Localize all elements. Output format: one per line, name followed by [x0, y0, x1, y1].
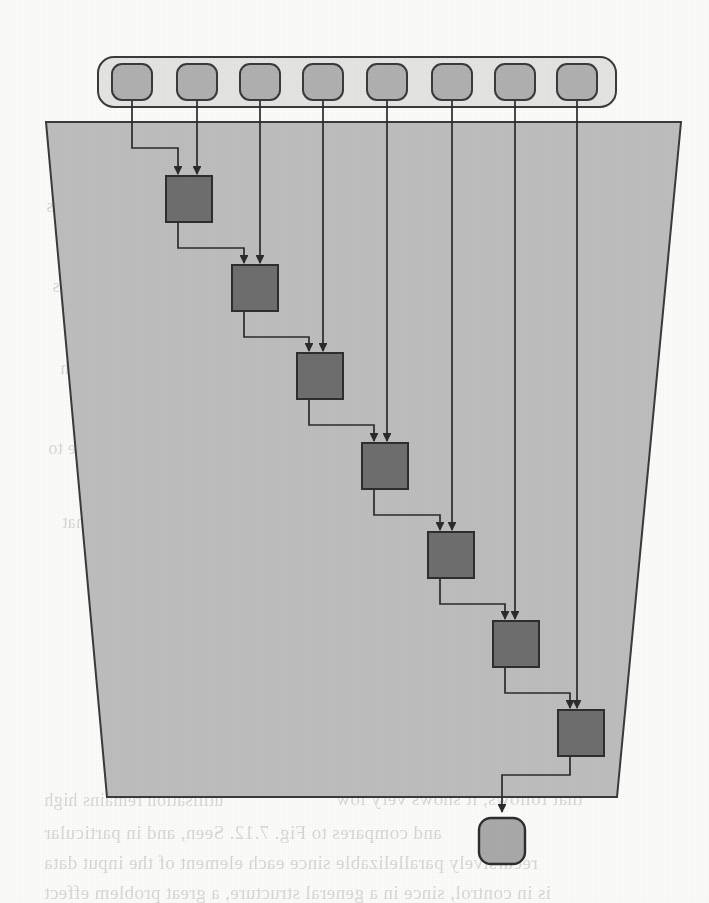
- input-cell-2[interactable]: [177, 64, 217, 100]
- input-cell-8[interactable]: [557, 64, 597, 100]
- input-cell-6[interactable]: [432, 64, 472, 100]
- input-cell-1[interactable]: [112, 64, 152, 100]
- input-cell-7[interactable]: [495, 64, 535, 100]
- scanned-page: of the processing elementdescribed in th…: [0, 0, 709, 903]
- stage-box-5[interactable]: [428, 532, 474, 578]
- output-node[interactable]: [479, 818, 525, 864]
- stage-box-1[interactable]: [166, 176, 212, 222]
- pipeline-diagram: [0, 0, 709, 903]
- stage-box-3[interactable]: [297, 353, 343, 399]
- input-cell-3[interactable]: [240, 64, 280, 100]
- input-bar: [98, 57, 616, 107]
- stage-box-7[interactable]: [558, 710, 604, 756]
- input-cell-4[interactable]: [303, 64, 343, 100]
- stage-box-4[interactable]: [362, 443, 408, 489]
- input-cell-5[interactable]: [367, 64, 407, 100]
- stage-box-2[interactable]: [232, 265, 278, 311]
- stage-box-6[interactable]: [493, 621, 539, 667]
